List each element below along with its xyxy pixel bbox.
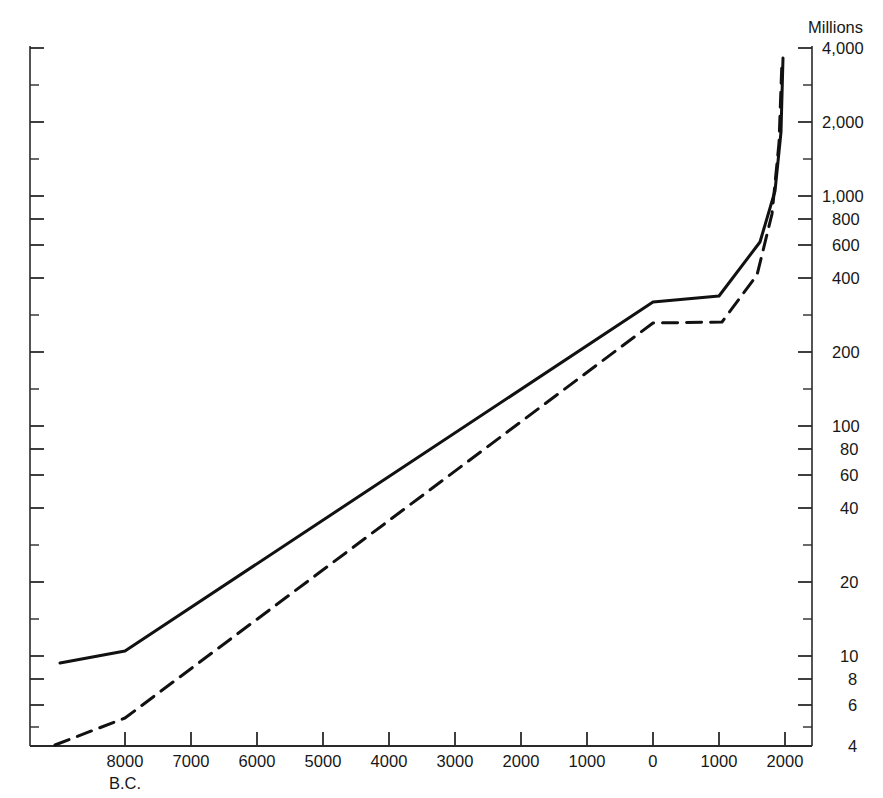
y-tick-label-10: 10 xyxy=(840,647,859,666)
axis-lines xyxy=(30,46,812,746)
x-tick-label-0: 0 xyxy=(648,752,657,771)
x-tick-label-5000bc: 5000 xyxy=(304,752,341,771)
y-tick-label-400: 400 xyxy=(832,269,860,288)
chart-plot-area xyxy=(0,0,883,798)
y-tick-label-600: 600 xyxy=(832,236,860,255)
x-tick-label-7000bc: 7000 xyxy=(172,752,209,771)
x-axis-era-label: B.C. xyxy=(109,774,141,793)
x-tick-label-1000ad: 1000 xyxy=(700,752,737,771)
y-tick-label-1000: 1,000 xyxy=(822,187,864,206)
y-tick-label-2000: 2,000 xyxy=(822,113,864,132)
x-tick-label-3000bc: 3000 xyxy=(436,752,473,771)
y-tick-label-4: 4 xyxy=(848,737,857,756)
series-upper-estimate-line xyxy=(60,58,783,663)
y-tick-label-80: 80 xyxy=(840,440,859,459)
x-tick-label-2000bc: 2000 xyxy=(502,752,539,771)
x-axis-ticks xyxy=(125,732,785,746)
y-tick-label-60: 60 xyxy=(840,466,859,485)
y-tick-label-100: 100 xyxy=(832,417,860,436)
y-axis-right-minor-ticks xyxy=(803,85,812,727)
y-tick-label-20: 20 xyxy=(840,573,859,592)
series-lower-estimate-line xyxy=(55,60,782,745)
population-chart: Millions 4,000 2,000 1,000 800 600 400 2… xyxy=(0,0,883,798)
y-tick-label-4000: 4,000 xyxy=(822,39,864,58)
y-axis-right-major-ticks xyxy=(798,48,812,746)
y-tick-label-8: 8 xyxy=(848,670,857,689)
y-axis-major-ticks xyxy=(30,48,44,746)
x-tick-label-8000bc: 8000 xyxy=(106,752,143,771)
x-tick-label-4000bc: 4000 xyxy=(370,752,407,771)
y-axis-unit-title: Millions xyxy=(808,18,863,37)
y-axis-minor-ticks xyxy=(30,85,39,727)
y-tick-label-800: 800 xyxy=(832,210,860,229)
y-tick-label-200: 200 xyxy=(832,343,860,362)
x-tick-label-6000bc: 6000 xyxy=(238,752,275,771)
x-tick-label-1000bc: 1000 xyxy=(568,752,605,771)
y-tick-label-40: 40 xyxy=(840,499,859,518)
x-tick-label-2000ad: 2000 xyxy=(766,752,803,771)
y-tick-label-6: 6 xyxy=(848,696,857,715)
